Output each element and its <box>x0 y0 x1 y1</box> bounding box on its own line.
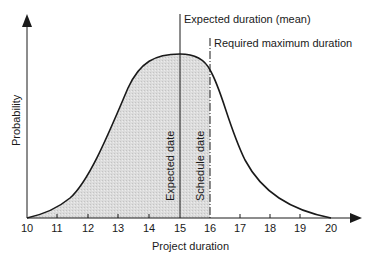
x-tick-label: 10 <box>17 222 37 234</box>
x-tick-label: 11 <box>47 222 67 234</box>
x-tick-label: 12 <box>78 222 98 234</box>
x-tick-label: 16 <box>200 222 220 234</box>
required-max-label: Required maximum duration <box>214 37 352 49</box>
x-tick-label: 17 <box>230 222 250 234</box>
expected-date-label: Expected date <box>164 131 176 201</box>
schedule-date-label: Schedule date <box>194 131 206 201</box>
mean-line-label: Expected duration (mean) <box>184 13 311 25</box>
shaded-area <box>27 54 210 218</box>
x-tick-label: 19 <box>290 222 310 234</box>
x-tick-label: 13 <box>108 222 128 234</box>
x-axis-label: Project duration <box>152 240 229 252</box>
x-tick-label: 14 <box>139 222 159 234</box>
x-axis-arrow-icon <box>350 213 362 223</box>
y-axis-arrow-icon <box>22 14 32 27</box>
x-tick-label: 18 <box>260 222 280 234</box>
y-axis-label: Probability <box>10 95 22 146</box>
x-tick-label: 15 <box>170 222 190 234</box>
x-tick-label: 20 <box>321 222 341 234</box>
